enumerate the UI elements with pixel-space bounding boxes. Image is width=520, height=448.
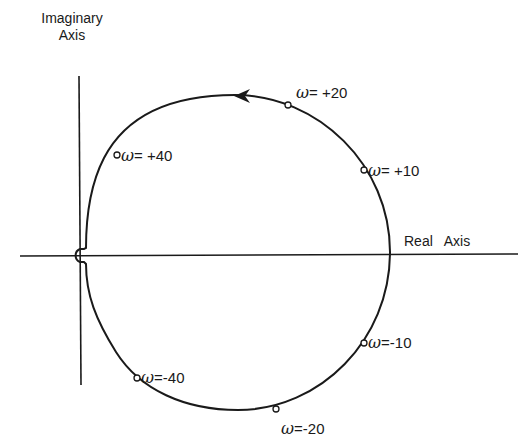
imaginary-axis-label-line2: Axis [32,27,112,44]
omega-symbol: ω [281,419,294,438]
omega-symbol: ω [368,161,381,180]
label-w-minus10: ω=-10 [368,334,412,351]
label-w-plus40: ω= +40 [121,147,172,164]
marker-w-plus20 [285,102,291,108]
imaginary-axis-label: Imaginary Axis [32,10,112,44]
omega-symbol: ω [368,333,381,352]
omega-symbol: ω [141,368,154,387]
nyquist-contour [76,95,390,410]
marker-w-plus10 [361,167,367,173]
omega-symbol: ω [121,146,134,165]
real-axis-label: Real Axis [404,233,470,250]
label-w-minus40: ω=-40 [141,369,185,386]
imaginary-axis-label-line1: Imaginary [32,10,112,27]
imaginary-axis [79,76,81,385]
label-w-plus20: ω= +20 [296,84,347,101]
label-w-plus10: ω= +10 [368,162,419,179]
label-w-minus20: ω=-20 [281,420,325,437]
marker-w-minus40 [134,375,140,381]
marker-w-minus10 [361,340,367,346]
real-axis [20,254,518,256]
omega-symbol: ω [296,83,309,102]
nyquist-diagram [0,0,520,448]
marker-w-minus20 [273,406,279,412]
marker-w-plus40 [114,152,120,158]
